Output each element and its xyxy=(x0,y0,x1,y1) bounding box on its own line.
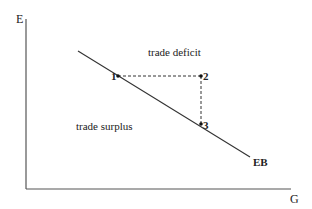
eb-diagram: E G EB 1 2 3 trade deficit trade surplus xyxy=(0,0,312,209)
point-1 xyxy=(116,74,120,78)
eb-curve-label: EB xyxy=(253,156,268,168)
point-1-label: 1 xyxy=(111,70,117,82)
point-2-label: 2 xyxy=(203,70,209,82)
point-3-label: 3 xyxy=(203,119,209,131)
trade-surplus-label: trade surplus xyxy=(76,120,133,132)
trade-deficit-label: trade deficit xyxy=(148,46,201,58)
eb-curve xyxy=(78,51,250,157)
x-axis-label: G xyxy=(290,192,299,206)
y-axis-label: E xyxy=(16,12,23,26)
